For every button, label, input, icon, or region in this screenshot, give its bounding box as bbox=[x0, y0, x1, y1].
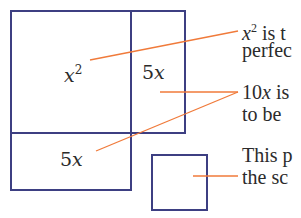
label-5x-right: 5x bbox=[142, 63, 165, 82]
label-x-squared: x2 bbox=[64, 64, 82, 85]
leader-line-10x-bottom bbox=[96, 92, 238, 151]
note-2-line-2: to be bbox=[242, 104, 281, 124]
note-2-line-1: 10x is bbox=[242, 82, 289, 102]
label-5x-right-num: 5 bbox=[142, 61, 154, 83]
leader-line-x-squared bbox=[90, 31, 238, 60]
completing-the-square-diagram: x2 5x 5x x2 is t perfec 10x is to be Thi… bbox=[0, 0, 301, 218]
label-x-squared-var: x bbox=[64, 64, 75, 86]
label-x-squared-exp: 2 bbox=[75, 63, 83, 77]
note-2-var: x bbox=[262, 81, 271, 103]
note-2-num: 10 bbox=[242, 81, 262, 103]
note-2-rest: is bbox=[271, 81, 289, 103]
label-5x-right-var: x bbox=[154, 61, 165, 83]
label-5x-bottom: 5x bbox=[60, 150, 83, 169]
note-1-line-2: perfec bbox=[242, 40, 292, 60]
label-5x-bottom-var: x bbox=[72, 148, 83, 170]
missing-square bbox=[152, 155, 207, 210]
label-5x-bottom-num: 5 bbox=[60, 148, 72, 170]
note-3-line-1: This p bbox=[242, 145, 293, 165]
note-3-line-2: the sc bbox=[242, 167, 288, 187]
